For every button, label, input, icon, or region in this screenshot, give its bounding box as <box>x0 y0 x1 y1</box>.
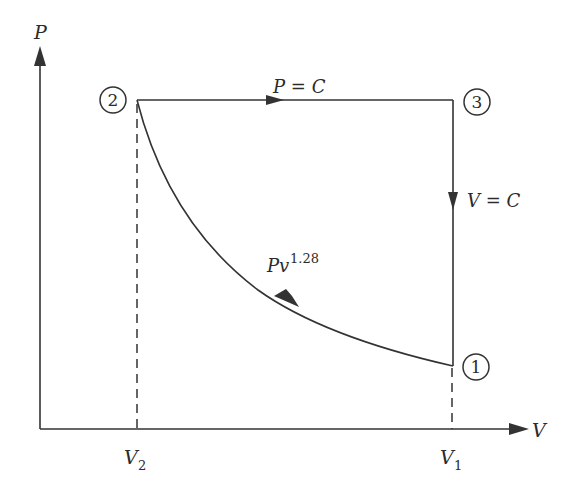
svg-text:1.28: 1.28 <box>290 251 319 266</box>
x-axis <box>40 423 529 435</box>
y-axis-label: P <box>33 21 48 43</box>
tick-v1: V 1 <box>440 446 462 473</box>
direction-arrow-icon <box>448 192 458 210</box>
y-axis-arrow-icon <box>34 46 46 66</box>
state-2-marker: 2 <box>100 87 126 113</box>
state-1-marker: 1 <box>463 354 489 380</box>
process-3-1-isochoric <box>448 100 458 366</box>
svg-text:Pv: Pv <box>266 255 289 276</box>
isobaric-label: P = C <box>272 76 326 97</box>
direction-arrow-icon <box>274 289 299 307</box>
state-3-marker: 3 <box>464 89 490 115</box>
x-axis-label: V <box>532 419 548 441</box>
svg-text:2: 2 <box>138 458 146 473</box>
tick-v2: V 2 <box>124 446 146 473</box>
svg-text:1: 1 <box>471 357 482 377</box>
x-axis-arrow-icon <box>509 423 529 435</box>
svg-text:2: 2 <box>108 90 119 110</box>
svg-text:3: 3 <box>472 92 483 112</box>
process-1-2-polytropic <box>137 100 453 366</box>
pv-diagram: P V V 2 V 1 P = C V = C Pv 1.28 2 <box>0 0 578 483</box>
y-axis <box>34 46 46 429</box>
svg-text:1: 1 <box>454 458 462 473</box>
isochoric-label: V = C <box>467 190 521 211</box>
polytropic-label: Pv 1.28 <box>266 251 319 276</box>
